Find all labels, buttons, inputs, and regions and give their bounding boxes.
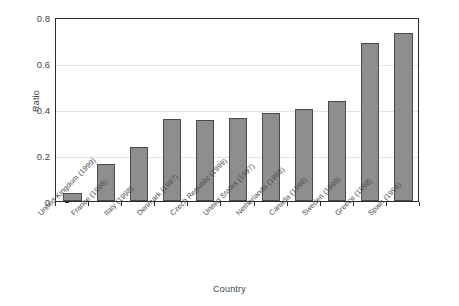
bar (361, 43, 379, 201)
bar (130, 147, 148, 201)
y-tick-label: 0.2 (37, 151, 50, 162)
bar (262, 113, 280, 201)
x-tick-mark (386, 202, 387, 206)
y-tick-label: 0.8 (37, 13, 50, 24)
x-tick-mark (320, 202, 321, 206)
x-tick-mark (419, 202, 420, 206)
bar (163, 119, 181, 201)
x-tick-mark (88, 202, 89, 206)
bar (63, 193, 81, 201)
x-tick-mark (220, 202, 221, 206)
bar (229, 118, 247, 201)
bar (97, 164, 115, 201)
bar (328, 101, 346, 202)
bar (295, 109, 313, 201)
x-tick-mark (55, 202, 56, 206)
y-tick-label: 0.6 (37, 59, 50, 70)
x-tick-mark (254, 202, 255, 206)
x-tick-mark (353, 202, 354, 206)
x-tick-mark (287, 202, 288, 206)
y-tick-label: 0 (45, 197, 50, 208)
y-tick-label: 0.4 (37, 105, 50, 116)
bar-chart: Ratio 00.20.40.60.8 United Kingdom (1999… (0, 0, 459, 306)
x-axis-tick-marks (55, 202, 419, 207)
x-tick-mark (154, 202, 155, 206)
x-tick-mark (187, 202, 188, 206)
bar (394, 33, 412, 201)
x-tick-mark (121, 202, 122, 206)
plot-area (55, 18, 419, 202)
bars-layer (56, 19, 418, 201)
bar (196, 120, 214, 201)
y-axis-tick-labels: 00.20.40.60.8 (14, 16, 50, 202)
x-axis-title: Country (0, 284, 459, 294)
